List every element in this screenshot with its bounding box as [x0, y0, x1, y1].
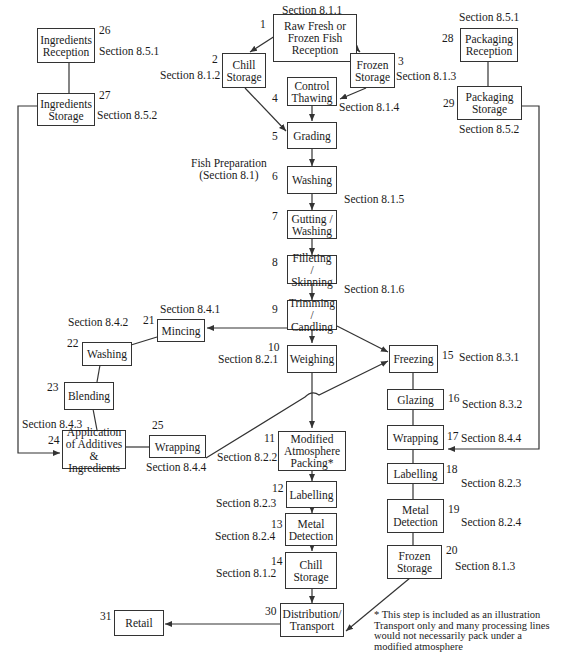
step-number: 3: [398, 55, 404, 67]
node-22-washing: Washing: [82, 342, 132, 366]
section-label: Section 8.4.4: [461, 432, 521, 444]
section-label: Section 8.1.1: [282, 4, 342, 16]
step-number: 14: [271, 555, 283, 567]
fish-preparation-group-label: Fish Preparation (Section 8.1): [191, 157, 267, 181]
step-number: 21: [143, 314, 155, 326]
step-number: 30: [265, 605, 277, 617]
step-number: 19: [448, 503, 460, 515]
step-number: 23: [47, 381, 59, 393]
section-label: Section 8.2.2: [217, 451, 277, 463]
node-4-control-thawing: Control Thawing: [287, 77, 337, 106]
step-number: 24: [48, 434, 60, 446]
section-label: Section 8.2.1: [218, 353, 278, 365]
section-label: Section 8.4.4: [146, 461, 206, 473]
node-7-gutting-washing: Gutting / Washing: [287, 210, 337, 239]
step-number: 10: [268, 341, 280, 353]
node-24-application-of-additives: Application of Additives & Ingredients: [62, 430, 126, 469]
node-6-washing: Washing: [287, 166, 337, 194]
node-18-labelling: Labelling: [387, 463, 444, 484]
node-9-trimming-candling: Trimming / Candling: [287, 300, 337, 330]
step-number: 29: [443, 97, 455, 109]
step-number: 1: [260, 18, 266, 30]
step-number: 25: [152, 419, 164, 431]
node-10-weighing: Weighing: [287, 345, 337, 373]
node-5-grading: Grading: [287, 122, 337, 149]
node-17-wrapping: Wrapping: [387, 425, 444, 450]
step-number: 2: [212, 53, 218, 65]
section-label: Section 8.2.3: [461, 477, 521, 489]
section-label: Section 8.5.2: [97, 109, 157, 121]
step-number: 6: [272, 170, 278, 182]
section-label: Section 8.4.3: [22, 418, 82, 430]
node-11-modified-atmosphere-packing: Modified Atmosphere Packing*: [278, 431, 346, 471]
section-label: Section 8.5.1: [99, 45, 159, 57]
step-number: 12: [272, 482, 284, 494]
step-number: 28: [442, 32, 454, 44]
step-number: 20: [446, 544, 458, 556]
section-label: Section 8.2.3: [216, 497, 276, 509]
section-label: Section 8.1.3: [396, 70, 456, 82]
step-number: 31: [100, 610, 112, 622]
section-label: Section 8.5.2: [459, 123, 519, 135]
step-number: 22: [67, 337, 79, 349]
node-25-wrapping: Wrapping: [149, 435, 206, 458]
section-label: Section 8.3.1: [459, 351, 519, 363]
step-number: 18: [446, 463, 458, 475]
node-21-mincing: Mincing: [157, 319, 205, 342]
step-number: 4: [272, 92, 278, 104]
node-15-freezing: Freezing: [389, 345, 438, 373]
node-14-chill-storage: Chill Storage: [285, 552, 337, 589]
node-16-glazing: Glazing: [387, 389, 444, 410]
section-label: Section 8.1.2: [160, 69, 220, 81]
node-3-frozen-storage: Frozen Storage: [350, 53, 395, 88]
section-label: Section 8.1.6: [344, 283, 404, 295]
section-label: Section 8.5.1: [459, 11, 519, 23]
node-23-blending: Blending: [64, 382, 114, 410]
step-number: 17: [447, 430, 459, 442]
step-number: 26: [99, 24, 111, 36]
step-number: 9: [272, 303, 278, 315]
section-label: Section 8.3.2: [462, 398, 522, 410]
node-8-filleting-skinning: Filleting / Skinning: [287, 255, 337, 284]
node-1-raw-fish-reception: Raw Fresh or Frozen Fish Reception: [273, 14, 357, 62]
node-19-metal-detection: Metal Detection: [387, 499, 444, 533]
section-label: Section 8.2.4: [461, 516, 521, 528]
step-number: 8: [272, 256, 278, 268]
flow-diagram: Raw Fresh or Frozen Fish Reception Chill…: [0, 0, 561, 656]
node-27-ingredients-storage: Ingredients Storage: [37, 93, 95, 126]
step-number: 16: [448, 392, 460, 404]
node-31-retail: Retail: [114, 610, 164, 636]
section-label: Section 8.1.5: [344, 193, 404, 205]
node-29-packaging-storage: Packaging Storage: [457, 86, 522, 120]
step-number: 5: [272, 130, 278, 142]
node-2-chill-storage: Chill Storage: [222, 53, 266, 88]
section-label: Section 8.2.4: [215, 530, 275, 542]
section-label: Section 8.1.3: [455, 560, 515, 572]
node-30-distribution-transport: Distribution/ Transport: [280, 603, 344, 637]
node-12-labelling: Labelling: [286, 481, 337, 508]
step-number: 13: [271, 518, 283, 530]
step-number: 15: [442, 349, 454, 361]
node-20-frozen-storage: Frozen Storage: [387, 545, 442, 579]
node-13-metal-detection: Metal Detection: [285, 513, 337, 546]
step-number: 11: [264, 432, 275, 444]
section-label: Section 8.1.2: [216, 567, 276, 579]
footnote: * This step is included as an illustrati…: [374, 610, 554, 652]
step-number: 27: [99, 89, 111, 101]
node-28-packaging-reception: Packaging Reception: [460, 28, 518, 62]
node-26-ingredients-reception: Ingredients Reception: [37, 28, 95, 63]
section-label: Section 8.4.2: [68, 316, 128, 328]
section-label: Section 8.4.1: [160, 303, 220, 315]
section-label: Section 8.1.4: [339, 101, 399, 113]
step-number: 7: [272, 210, 278, 222]
